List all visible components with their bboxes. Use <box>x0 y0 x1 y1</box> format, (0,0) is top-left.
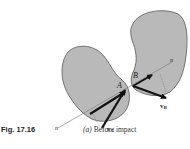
figure-caption: (a) Before impact <box>83 125 136 134</box>
line-label-n-lower: n <box>55 125 58 131</box>
line-label-n-upper: n <box>170 57 173 63</box>
contact-point-a-label: A <box>117 82 122 90</box>
contact-point-b-label: B <box>133 72 138 80</box>
velocity-label-b: vB <box>160 103 167 110</box>
figure-number: Fig. 17.16 <box>1 125 35 134</box>
